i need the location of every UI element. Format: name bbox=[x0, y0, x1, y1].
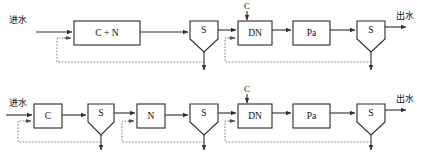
unit-clarifier-5 bbox=[357, 104, 385, 135]
unit-n-reactor bbox=[137, 104, 165, 128]
effluent-label-top: 出水 bbox=[396, 10, 414, 21]
unit-clarifier-1 bbox=[190, 21, 218, 52]
unit-pa-reactor bbox=[293, 21, 330, 45]
carbon-dose-label-top: C bbox=[244, 1, 250, 11]
unit-dn-reactor bbox=[238, 21, 272, 45]
influent-label-top: 进水 bbox=[9, 14, 27, 25]
top-row: 进水 C + N S C DN bbox=[9, 1, 414, 70]
unit-clarifier-4 bbox=[190, 104, 218, 135]
bottom-row: 进水 C S N S bbox=[6, 84, 414, 150]
unit-pa-reactor-2 bbox=[293, 104, 330, 128]
unit-dn-reactor-2 bbox=[238, 104, 272, 128]
unit-clarifier-2 bbox=[357, 21, 385, 52]
unit-c-reactor bbox=[34, 104, 62, 128]
influent-label-bottom: 进水 bbox=[9, 97, 27, 108]
carbon-dose-label-bottom: C bbox=[244, 84, 250, 94]
unit-clarifier-3 bbox=[88, 104, 114, 135]
process-flow-diagram: 进水 C + N S C DN bbox=[0, 0, 422, 156]
unit-cn-reactor bbox=[74, 21, 140, 45]
effluent-label-bottom: 出水 bbox=[396, 93, 414, 104]
